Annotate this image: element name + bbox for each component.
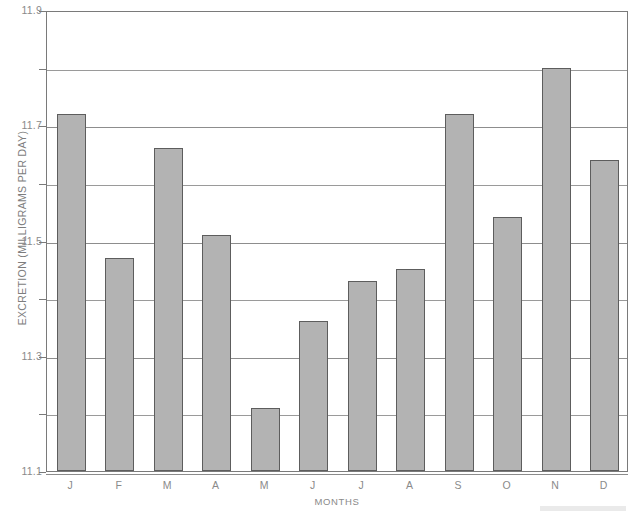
x-axis-tick-label: M (240, 479, 289, 491)
x-axis-tick-label: D (580, 479, 629, 491)
y-axis-tick-mark-minor (39, 184, 46, 185)
bar (105, 258, 134, 471)
x-axis-tick-label: J (46, 479, 95, 491)
bar (542, 68, 571, 471)
x-axis-tick-label: M (143, 479, 192, 491)
x-axis-tick-label: J (289, 479, 338, 491)
y-axis-tick-mark (39, 472, 46, 473)
y-axis-tick-label: 11.9 (6, 4, 42, 16)
plot-area (46, 11, 628, 472)
x-axis-tick-label: S (434, 479, 483, 491)
y-axis-tick-label: 11.3 (6, 350, 42, 362)
x-axis-tick-label: N (531, 479, 580, 491)
x-axis-tick-label: J (337, 479, 386, 491)
y-axis-tick-mark-minor (39, 299, 46, 300)
y-axis-tick-label: 11.5 (6, 235, 42, 247)
y-axis-tick-mark-minor (39, 414, 46, 415)
bars-group (47, 12, 627, 471)
y-axis-tick-mark (39, 242, 46, 243)
bar (251, 408, 280, 471)
y-axis-tick-mark (39, 357, 46, 358)
x-axis-tick-label: F (95, 479, 144, 491)
bar-chart: EXCRETION (MILLIGRAMS PER DAY) 11.911.71… (0, 0, 640, 520)
bar (57, 114, 86, 471)
bar (590, 160, 619, 471)
scan-artifact (540, 506, 626, 511)
bar (396, 269, 425, 471)
y-axis-tick-mark (39, 126, 46, 127)
bar (202, 235, 231, 471)
bar (445, 114, 474, 471)
y-axis-tick-mark-minor (39, 69, 46, 70)
bar (348, 281, 377, 471)
x-axis-line (46, 474, 628, 475)
x-axis-tick-label: O (483, 479, 532, 491)
y-axis-tick-mark (39, 11, 46, 12)
bar (299, 321, 328, 471)
y-axis-tick-labels: 11.911.711.511.311.1 (0, 0, 42, 520)
x-axis-tick-label: A (192, 479, 241, 491)
bar (493, 217, 522, 471)
y-axis-tick-label: 11.7 (6, 119, 42, 131)
y-axis-tick-label: 11.1 (6, 465, 42, 477)
x-axis-tick-label: A (386, 479, 435, 491)
bar (154, 148, 183, 471)
